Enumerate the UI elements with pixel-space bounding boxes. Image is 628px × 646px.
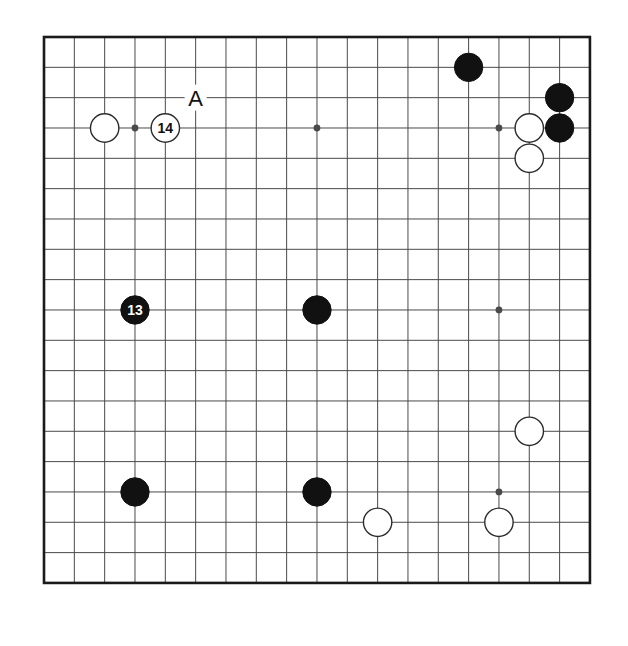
black-stone[interactable] (303, 478, 331, 506)
black-stone[interactable] (454, 53, 482, 81)
white-stone[interactable] (515, 144, 543, 172)
white-stone[interactable] (90, 114, 118, 142)
white-stone[interactable] (515, 114, 543, 142)
white-stone[interactable] (485, 508, 513, 536)
annotation-label-a: A (188, 86, 203, 111)
stone-black[interactable] (545, 83, 573, 111)
stone-white[interactable] (515, 144, 543, 172)
black-stone[interactable] (545, 83, 573, 111)
stone-black-move-13[interactable]: 13 (121, 296, 149, 324)
stone-white[interactable] (515, 417, 543, 445)
black-stone[interactable] (121, 478, 149, 506)
black-stone[interactable] (303, 296, 331, 324)
stone-move-number: 14 (158, 120, 174, 136)
white-stone[interactable] (363, 508, 391, 536)
stone-black[interactable] (545, 114, 573, 142)
black-stone[interactable] (545, 114, 573, 142)
hoshi-point (496, 307, 503, 314)
annotation-layer: A (185, 85, 207, 111)
hoshi-point (314, 125, 321, 132)
hoshi-point (496, 125, 503, 132)
go-board-canvas[interactable]: A 1413 (0, 0, 628, 646)
diagram-page: A 1413 (0, 0, 628, 646)
stone-white[interactable] (485, 508, 513, 536)
stone-white[interactable] (515, 114, 543, 142)
stone-black[interactable] (303, 478, 331, 506)
stone-white[interactable] (90, 114, 118, 142)
hoshi-point (132, 125, 139, 132)
stone-black[interactable] (454, 53, 482, 81)
stone-black[interactable] (121, 478, 149, 506)
white-stone[interactable] (515, 417, 543, 445)
stone-white[interactable] (363, 508, 391, 536)
stone-white-move-14[interactable]: 14 (151, 114, 179, 142)
hoshi-point (496, 489, 503, 496)
go-board[interactable]: A 1413 (0, 0, 628, 646)
stone-move-number: 13 (127, 302, 143, 318)
stone-black[interactable] (303, 296, 331, 324)
